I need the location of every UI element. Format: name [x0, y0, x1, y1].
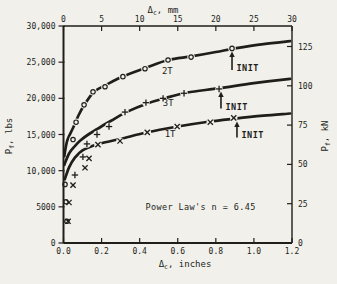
- top-tick-label: 5: [99, 15, 104, 24]
- left-tick-label: 20,000: [27, 94, 56, 103]
- series-label: 1T: [165, 129, 176, 139]
- right-tick-label: 75: [298, 121, 308, 130]
- data-point-circle: [189, 55, 193, 59]
- left-tick-label: 30,000: [27, 22, 56, 31]
- left-tick-label: 0: [51, 239, 56, 248]
- right-tick-label: 50: [298, 160, 308, 169]
- data-point-circle: [71, 137, 75, 141]
- left-tick-label: 5000: [36, 203, 55, 212]
- series-label: 3T: [163, 98, 174, 108]
- data-point-circle: [82, 103, 86, 107]
- top-tick-label: 0: [61, 15, 66, 24]
- bottom-tick-label: 0.2: [94, 247, 109, 256]
- data-point-circle: [166, 58, 170, 62]
- data-point-circle: [91, 90, 95, 94]
- top-tick-label: 20: [211, 15, 221, 24]
- right-tick-label: 125: [298, 43, 313, 52]
- data-point-circle: [230, 46, 234, 50]
- top-tick-label: 25: [249, 15, 259, 24]
- chart-canvas: 30,00025,00020,00015,00010,0005000012510…: [0, 0, 337, 284]
- left-tick-label: 25,000: [27, 58, 56, 67]
- init-arrowhead: [229, 51, 234, 57]
- right-axis-title: Pf, kN: [320, 120, 332, 151]
- left-tick-label: 10,000: [27, 167, 56, 176]
- power-law-note: Power Law's n = 6.45: [145, 202, 255, 212]
- series-label: 2T: [162, 66, 173, 76]
- init-label: INIT: [242, 130, 264, 140]
- bottom-tick-label: 0.6: [171, 247, 186, 256]
- init-label: INIT: [237, 63, 259, 73]
- init-arrowhead: [234, 122, 239, 128]
- bottom-tick-label: 1.0: [247, 247, 262, 256]
- left-tick-label: 15,000: [27, 131, 56, 140]
- bottom-tick-label: 0.0: [56, 247, 71, 256]
- bottom-axis-title: Δc, inches: [159, 259, 212, 271]
- data-point-circle: [103, 85, 107, 89]
- left-axis-title: Pf, lbs: [4, 118, 16, 154]
- bottom-tick-label: 1.2: [285, 247, 300, 256]
- data-point-circle: [74, 120, 78, 124]
- scanned-figure-page: 30,00025,00020,00015,00010,0005000012510…: [0, 0, 337, 284]
- top-tick-label: 30: [287, 15, 297, 24]
- top-tick-label: 10: [135, 15, 145, 24]
- data-point-circle: [121, 74, 125, 78]
- data-point-circle: [143, 66, 147, 70]
- right-tick-label: 100: [298, 82, 313, 91]
- top-tick-label: 15: [173, 15, 183, 24]
- curve-3T: [64, 79, 290, 165]
- right-tick-label: 25: [298, 200, 308, 209]
- bottom-tick-label: 0.4: [132, 247, 147, 256]
- init-label: INIT: [226, 102, 248, 112]
- bottom-tick-label: 0.8: [209, 247, 224, 256]
